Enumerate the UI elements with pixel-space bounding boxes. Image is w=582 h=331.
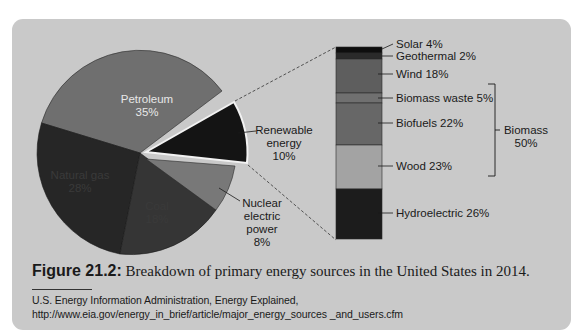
label-natural-gas-pct: 28% bbox=[68, 182, 91, 194]
figure-number: Figure 21.2: bbox=[32, 262, 122, 279]
bar-segment-wood bbox=[336, 145, 382, 189]
label-hydroelectric: Hydroelectric 26% bbox=[396, 207, 489, 219]
bar-segment-solar bbox=[336, 47, 382, 53]
caption-divider bbox=[32, 289, 92, 290]
bar-segment-hydro bbox=[336, 189, 382, 239]
label-biomass-pct: 50% bbox=[514, 137, 537, 149]
label-biofuels: Biofuels 22% bbox=[396, 117, 463, 129]
label-renewable-pct: 10% bbox=[272, 150, 295, 162]
bar-segment-wind bbox=[336, 59, 382, 93]
label-coal: Coal bbox=[145, 200, 169, 212]
figure-caption: Figure 21.2: Breakdown of primary energy… bbox=[32, 262, 530, 280]
label-wind: Wind 18% bbox=[396, 68, 448, 80]
label-wood: Wood 23% bbox=[396, 160, 452, 172]
label-petroleum: Petroleum bbox=[121, 93, 173, 105]
bar-segment-geothermal bbox=[336, 53, 382, 59]
label-renewable-line1: Renewable bbox=[255, 124, 313, 136]
bar-segment-biofuels bbox=[336, 103, 382, 145]
label-solar: Solar 4% bbox=[396, 38, 443, 50]
stacked-bar bbox=[336, 47, 382, 239]
label-nuclear-line1: Nuclear bbox=[242, 197, 282, 209]
figure-caption-text: Breakdown of primary energy sources in t… bbox=[122, 263, 530, 279]
label-geothermal: Geothermal 2% bbox=[396, 50, 476, 62]
label-renewable-line2: energy bbox=[266, 137, 301, 149]
label-coal-pct: 18% bbox=[145, 213, 168, 225]
pie-chart bbox=[37, 50, 247, 254]
label-nuclear-line3: power bbox=[246, 223, 277, 235]
label-biomass: Biomass bbox=[504, 124, 548, 136]
source-note: U.S. Energy Information Administration, … bbox=[32, 293, 552, 321]
label-biomass-waste: Biomass waste 5% bbox=[396, 92, 493, 104]
connector-top bbox=[235, 47, 336, 101]
label-nuclear-line2: electric bbox=[244, 210, 281, 222]
label-petroleum-pct: 35% bbox=[135, 106, 158, 118]
label-natural-gas: Natural gas bbox=[51, 169, 110, 181]
energy-chart: Petroleum 35% Natural gas 28% Coal 18% R… bbox=[0, 0, 582, 331]
label-nuclear-pct: 8% bbox=[254, 236, 271, 248]
bar-segment-biomass-waste bbox=[336, 93, 382, 103]
